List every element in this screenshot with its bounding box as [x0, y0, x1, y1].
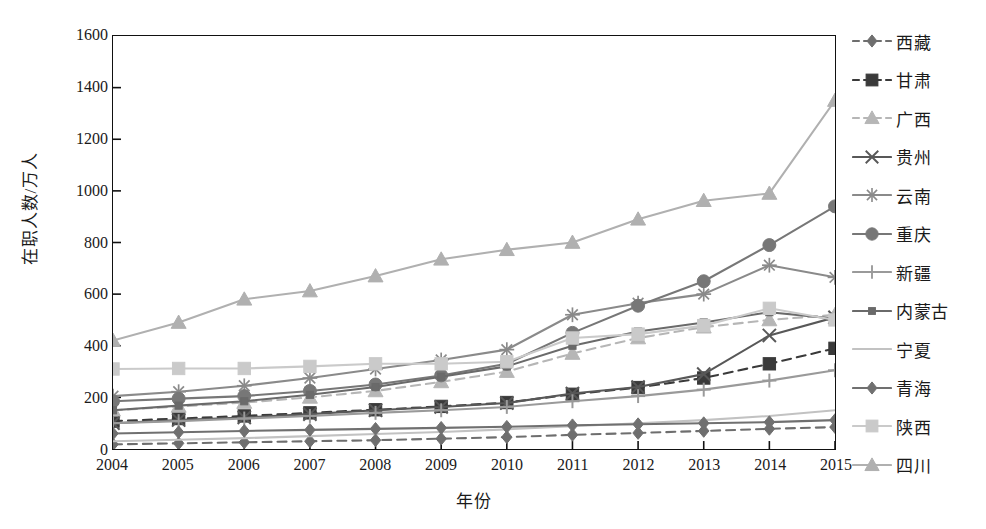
legend-item-西藏[interactable]: 西藏: [852, 22, 984, 61]
y-axis-tick-label: 1600: [62, 26, 108, 44]
legend-item-贵州[interactable]: 贵州: [852, 138, 984, 177]
legend-marker-icon: [852, 184, 892, 206]
series-4: [113, 258, 835, 404]
x-axis-tick-label: 2015: [820, 456, 852, 474]
x-axis-tick-label: 2005: [162, 456, 194, 474]
legend-marker-icon: [852, 261, 892, 283]
legend-item-重庆[interactable]: 重庆: [852, 215, 984, 254]
legend-item-内蒙古[interactable]: 内蒙古: [852, 292, 984, 331]
y-axis-tick-label: 1000: [62, 182, 108, 200]
legend-marker-icon: [852, 415, 892, 437]
legend-item-label: 西藏: [896, 29, 931, 54]
x-axis-tick-label: 2007: [293, 456, 325, 474]
legend-item-广西[interactable]: 广西: [852, 99, 984, 138]
legend-item-label: 宁夏: [896, 337, 931, 362]
legend-item-label: 陕西: [896, 414, 931, 439]
y-axis-tick-label: 800: [62, 234, 108, 252]
x-axis-tick-label: 2014: [754, 456, 786, 474]
legend-marker-icon: [852, 30, 892, 52]
legend-marker-icon: [852, 223, 892, 245]
y-axis-tick-label: 600: [62, 285, 108, 303]
legend-marker-icon: [852, 146, 892, 168]
legend-item-label: 云南: [896, 183, 931, 208]
x-axis-title: 年份: [112, 487, 836, 512]
y-axis-title: 在职人数/万人: [16, 129, 41, 289]
legend-marker-icon: [852, 377, 892, 399]
x-axis-tick-label: 2012: [623, 456, 655, 474]
series-0: [113, 421, 835, 449]
legend-item-青海[interactable]: 青海: [852, 369, 984, 408]
x-axis-tick-label: 2010: [491, 456, 523, 474]
series-11: [113, 93, 835, 346]
legend-marker-icon: [852, 107, 892, 129]
legend-item-label: 新疆: [896, 260, 931, 285]
x-axis-tick-label: 2009: [425, 456, 457, 474]
series-8: [113, 410, 835, 441]
legend-item-label: 内蒙古: [896, 298, 949, 323]
legend-item-label: 广西: [896, 106, 931, 131]
x-axis-tick-label: 2008: [359, 456, 391, 474]
legend-item-四川[interactable]: 四川: [852, 446, 984, 485]
legend-marker-icon: [852, 338, 892, 360]
legend-item-label: 甘肃: [896, 67, 931, 92]
legend-item-新疆[interactable]: 新疆: [852, 253, 984, 292]
y-axis-tick-label: 1200: [62, 130, 108, 148]
legend-item-甘肃[interactable]: 甘肃: [852, 61, 984, 100]
legend-marker-icon: [852, 300, 892, 322]
legend-item-label: 青海: [896, 375, 931, 400]
x-axis-tick-label: 2013: [688, 456, 720, 474]
x-axis-tick-label: 2004: [96, 456, 128, 474]
legend-item-label: 四川: [896, 452, 931, 477]
y-axis-tick-label: 1400: [62, 78, 108, 96]
legend-item-陕西[interactable]: 陕西: [852, 407, 984, 446]
plot-area: [112, 35, 836, 450]
y-axis-tick-label: 400: [62, 337, 108, 355]
legend-marker-icon: [852, 454, 892, 476]
x-axis-tick-label: 2006: [228, 456, 260, 474]
chart-container: 在职人数/万人 02004006008001000120014001600 20…: [0, 0, 986, 529]
y-axis-tick-label: 200: [62, 389, 108, 407]
legend-item-宁夏[interactable]: 宁夏: [852, 330, 984, 369]
series-10: [113, 302, 835, 375]
legend-marker-icon: [852, 69, 892, 91]
x-axis-tick-label: 2011: [557, 456, 588, 474]
legend-item-云南[interactable]: 云南: [852, 176, 984, 215]
chart-legend: 西藏甘肃广西贵州云南重庆新疆内蒙古宁夏青海陕西四川: [852, 22, 984, 484]
legend-item-label: 重庆: [896, 221, 931, 246]
y-axis-tick-labels: 02004006008001000120014001600: [52, 0, 108, 529]
legend-item-label: 贵州: [896, 144, 931, 169]
